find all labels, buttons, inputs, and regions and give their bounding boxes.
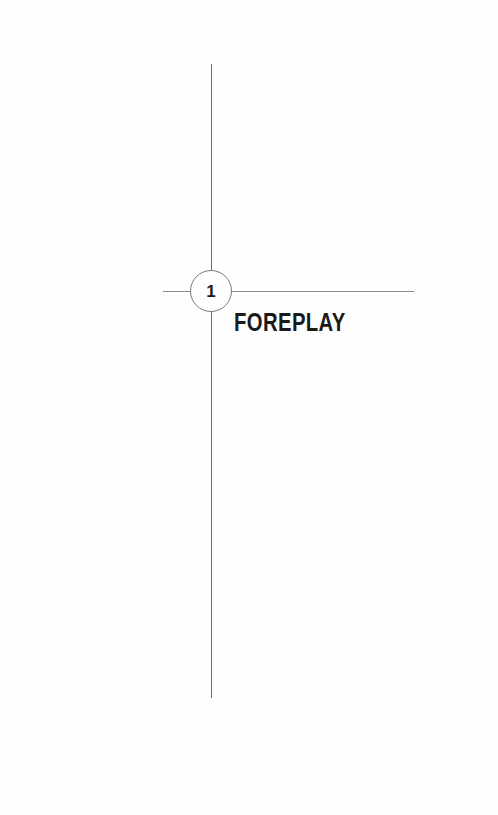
chapter-title: FOREPLAY	[234, 309, 346, 335]
horizontal-rule-right	[232, 291, 414, 292]
chapter-number: 1	[206, 283, 215, 300]
chapter-opener-page: 1 FOREPLAY	[0, 0, 498, 815]
horizontal-rule-left	[163, 291, 190, 292]
vertical-rule	[211, 64, 212, 698]
chapter-number-circle: 1	[190, 270, 232, 312]
